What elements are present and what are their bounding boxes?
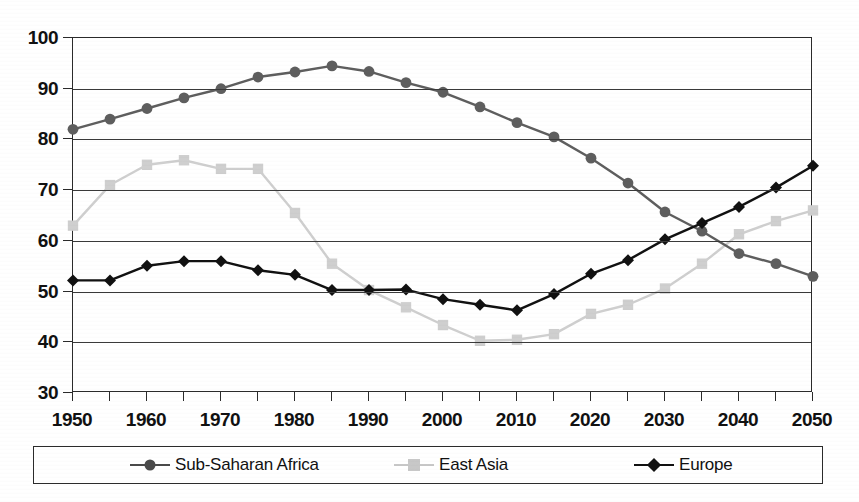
x-tick-mark-2025 xyxy=(627,392,628,401)
data-point-2045 xyxy=(771,258,782,269)
data-point-1975 xyxy=(252,264,264,276)
data-point-2045 xyxy=(770,182,782,194)
x-tick-mark-1995 xyxy=(405,392,406,401)
data-point-1980 xyxy=(289,269,301,281)
x-tick-mark-2000 xyxy=(442,392,443,401)
data-point-2050 xyxy=(807,160,819,172)
data-point-2015 xyxy=(549,329,559,339)
x-tick-mark-1970 xyxy=(220,392,221,401)
data-point-2015 xyxy=(549,131,560,142)
x-tick-mark-2040 xyxy=(738,392,739,401)
legend-item-east-asia[interactable]: East Asia xyxy=(394,447,508,483)
data-point-1950 xyxy=(68,220,78,230)
legend-item-europe[interactable]: Europe xyxy=(634,447,733,483)
x-tick-mark-1950 xyxy=(72,392,73,401)
series-line xyxy=(73,160,813,341)
data-point-2025 xyxy=(622,254,634,266)
data-point-1955 xyxy=(105,114,116,125)
legend-swatch-diamond-icon xyxy=(634,457,674,473)
legend-swatch-circle-icon xyxy=(130,457,170,473)
x-tick-label-2040: 2040 xyxy=(718,410,758,429)
legend-marker-square-icon xyxy=(408,459,420,471)
data-point-2010 xyxy=(512,117,523,128)
x-tick-mark-1960 xyxy=(146,392,147,401)
data-point-2025 xyxy=(623,300,633,310)
data-point-2025 xyxy=(623,178,634,189)
data-point-1985 xyxy=(327,60,338,71)
data-point-1975 xyxy=(253,72,264,83)
data-point-1995 xyxy=(401,302,411,312)
legend-label: Europe xyxy=(679,455,733,475)
gridline-y-50 xyxy=(73,292,811,293)
plot-area xyxy=(72,37,812,392)
x-tick-mark-2035 xyxy=(701,392,702,401)
data-point-1995 xyxy=(401,77,412,88)
data-point-1980 xyxy=(290,67,301,78)
y-tick-mark-50 xyxy=(63,291,72,292)
data-point-2035 xyxy=(697,258,707,268)
series-layer xyxy=(73,38,813,393)
y-tick-mark-80 xyxy=(63,138,72,139)
x-tick-mark-2020 xyxy=(590,392,591,401)
data-point-2045 xyxy=(771,216,781,226)
series-east-asia xyxy=(68,155,818,346)
y-tick-label-30: 30 xyxy=(2,383,58,402)
gridline-y-90 xyxy=(73,89,811,90)
data-point-2020 xyxy=(586,309,596,319)
y-tick-label-70: 70 xyxy=(2,180,58,199)
data-point-1980 xyxy=(290,208,300,218)
x-tick-mark-1955 xyxy=(109,392,110,401)
data-point-1960 xyxy=(142,160,152,170)
y-tick-mark-70 xyxy=(63,189,72,190)
y-tick-label-50: 50 xyxy=(2,281,58,300)
x-tick-mark-1990 xyxy=(368,392,369,401)
legend-label: East Asia xyxy=(439,455,508,475)
x-tick-mark-1975 xyxy=(257,392,258,401)
data-point-1950 xyxy=(68,124,79,135)
y-tick-label-60: 60 xyxy=(2,230,58,249)
x-tick-mark-1980 xyxy=(294,392,295,401)
data-point-2010 xyxy=(512,335,522,345)
gridline-y-80 xyxy=(73,139,811,140)
x-tick-mark-1985 xyxy=(331,392,332,401)
data-point-1975 xyxy=(253,164,263,174)
data-point-1965 xyxy=(178,255,190,267)
data-point-2005 xyxy=(475,102,486,113)
y-tick-label-90: 90 xyxy=(2,78,58,97)
x-tick-label-2050: 2050 xyxy=(792,410,832,429)
data-point-1960 xyxy=(142,103,153,114)
x-tick-mark-2010 xyxy=(516,392,517,401)
legend-item-sub-saharan-africa[interactable]: Sub-Saharan Africa xyxy=(130,447,319,483)
legend-marker-diamond-icon xyxy=(647,458,661,472)
legend-label: Sub-Saharan Africa xyxy=(175,455,319,475)
data-point-2030 xyxy=(659,233,671,245)
y-tick-mark-30 xyxy=(63,392,72,393)
legend-marker-circle-icon xyxy=(145,460,156,471)
data-point-1965 xyxy=(179,155,189,165)
data-point-2040 xyxy=(734,248,745,259)
data-point-1955 xyxy=(105,180,115,190)
gridline-y-60 xyxy=(73,241,811,242)
data-point-1960 xyxy=(141,260,153,272)
data-point-1955 xyxy=(104,274,116,286)
data-point-2010 xyxy=(511,304,523,316)
data-point-2020 xyxy=(586,153,597,164)
gridline-y-70 xyxy=(73,190,811,191)
data-point-1970 xyxy=(215,255,227,267)
chart-container: 30405060708090100 1950196019701980199020… xyxy=(0,0,859,502)
x-tick-mark-2050 xyxy=(812,392,813,401)
x-tick-label-1950: 1950 xyxy=(52,410,92,429)
x-tick-mark-2015 xyxy=(553,392,554,401)
x-tick-mark-2045 xyxy=(775,392,776,401)
x-tick-label-2000: 2000 xyxy=(422,410,462,429)
y-tick-label-100: 100 xyxy=(2,28,58,47)
x-tick-mark-2030 xyxy=(664,392,665,401)
y-tick-mark-90 xyxy=(63,88,72,89)
data-point-1985 xyxy=(326,284,338,296)
data-point-2030 xyxy=(660,207,671,218)
data-point-1985 xyxy=(327,258,337,268)
data-point-2050 xyxy=(808,271,819,282)
data-point-2000 xyxy=(438,320,448,330)
chart-legend: Sub-Saharan AfricaEast AsiaEurope xyxy=(33,446,823,484)
x-tick-label-1960: 1960 xyxy=(126,410,166,429)
